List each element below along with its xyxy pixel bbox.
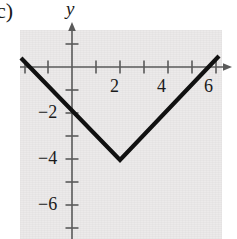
x-tick-label-6: 6 xyxy=(204,76,213,97)
y-tick-label-neg6: −6 xyxy=(38,194,57,215)
y-axis xyxy=(68,22,76,239)
x-axis xyxy=(20,63,232,71)
x-tick-label-4: 4 xyxy=(157,76,166,97)
graph-figure: c) y xyxy=(0,0,237,239)
y-tick-label-neg4: −4 xyxy=(38,148,57,169)
x-tick-label-2: 2 xyxy=(110,76,119,97)
y-tick-label-neg2: −2 xyxy=(38,102,57,123)
coordinate-plot xyxy=(0,0,237,239)
